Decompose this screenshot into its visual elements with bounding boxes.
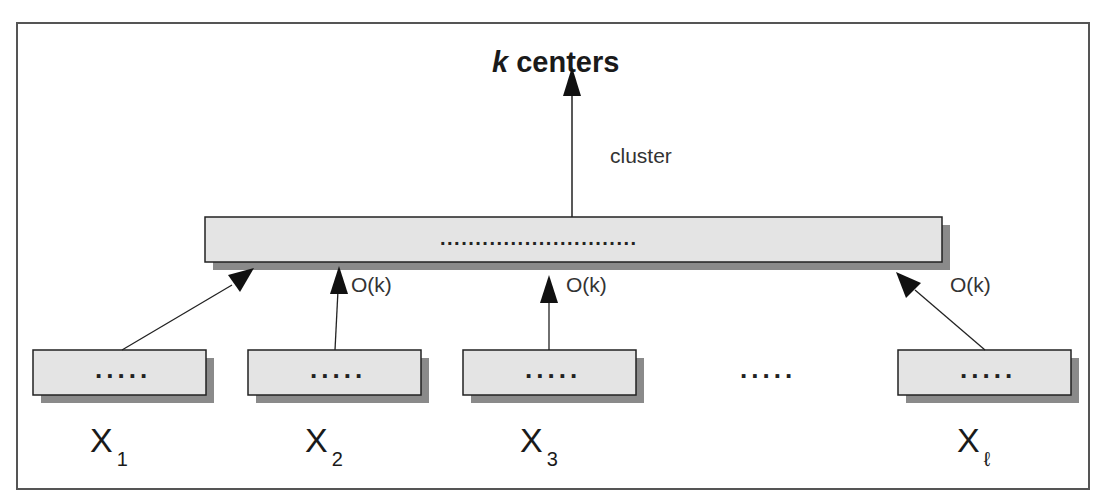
edge-label-xl: O(k) [950, 273, 991, 296]
cluster-label: cluster [610, 144, 672, 167]
nodes-ellipsis: ..... [740, 354, 796, 384]
label-x3: X3 [520, 421, 558, 470]
aggregator-bar: ............................ [205, 217, 950, 270]
node-x1-content: ..... [95, 354, 151, 384]
label-x2: X2 [305, 421, 343, 470]
diagram-canvas: k centers cluster ......................… [0, 0, 1110, 498]
cluster-arrow [563, 67, 581, 217]
node-x2: ..... [248, 350, 429, 403]
node-x1: ..... [33, 350, 214, 403]
arrow-x2 [330, 266, 348, 350]
node-x3: ..... [463, 350, 644, 403]
node-xl-content: ..... [960, 354, 1016, 384]
aggregator-content: ............................ [440, 227, 638, 249]
edge-label-x2: O(k) [351, 273, 392, 296]
title-rest: centers [508, 46, 619, 78]
node-xl: ..... [898, 350, 1079, 403]
edge-label-x3: O(k) [566, 273, 607, 296]
node-x3-content: ..... [525, 354, 581, 384]
label-xl: Xℓ [957, 421, 991, 470]
node-x2-content: ..... [310, 354, 366, 384]
label-x1: X1 [90, 421, 128, 470]
title-k-centers: k centers [492, 46, 619, 78]
arrow-x1 [122, 268, 254, 350]
arrow-x3 [540, 275, 558, 350]
